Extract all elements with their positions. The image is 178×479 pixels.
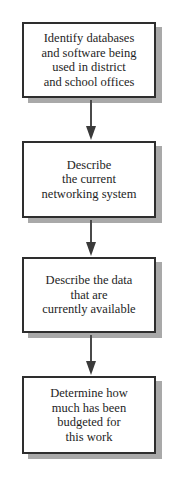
step-box-identify-databases: Identify databases and software being us… xyxy=(22,22,156,98)
step-label: Describe the current networking system xyxy=(42,158,137,202)
step-label: Determine how much has been budgeted for… xyxy=(50,386,127,444)
step-box-describe-data: Describe the data that are currently ava… xyxy=(22,257,156,333)
arrow-down-icon xyxy=(86,100,96,140)
arrow-down-icon xyxy=(86,335,96,375)
step-label: Describe the data that are currently ava… xyxy=(42,273,135,317)
step-label: Identify databases and software being us… xyxy=(41,31,136,89)
step-box-describe-networking: Describe the current networking system xyxy=(22,141,156,218)
step-box-determine-budget: Determine how much has been budgeted for… xyxy=(22,376,156,454)
arrow-down-icon xyxy=(86,220,96,256)
